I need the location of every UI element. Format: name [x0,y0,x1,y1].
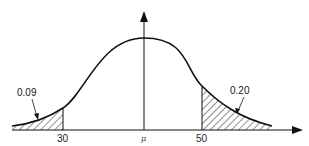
y-axis-arrow-icon [140,11,148,22]
x-axis-arrow-icon [292,126,303,134]
left-pointer-arrowhead-icon [34,113,39,120]
tick-label-30: 30 [57,133,69,144]
right-tail-probability: 0.20 [230,85,250,96]
tick-label-50: 50 [196,133,208,144]
left-tail-probability: 0.09 [17,87,37,98]
normal-curve-diagram: 30 μ 50 0.09 0.20 [0,0,309,146]
tick-label-mu: μ [141,134,146,143]
